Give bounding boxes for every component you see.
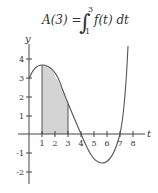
y-tick-labels: 4 3 2 1 -1 -2 bbox=[16, 55, 24, 177]
svg-text:1: 1 bbox=[19, 112, 24, 121]
svg-text:4: 4 bbox=[19, 55, 24, 64]
shaded-area bbox=[42, 65, 68, 134]
svg-text:-1: -1 bbox=[16, 149, 24, 158]
y-axis-label: y bbox=[24, 33, 31, 44]
svg-text:6: 6 bbox=[104, 139, 109, 148]
svg-text:-2: -2 bbox=[16, 168, 24, 177]
svg-text:3: 3 bbox=[19, 74, 24, 83]
graph: t y 1 2 3 4 5 6 7 8 4 3 2 1 -1 -2 bbox=[0, 0, 158, 193]
svg-text:1: 1 bbox=[39, 139, 44, 148]
x-axis-label: t bbox=[147, 128, 152, 139]
svg-text:3: 3 bbox=[65, 139, 70, 148]
svg-text:2: 2 bbox=[52, 139, 57, 148]
svg-text:2: 2 bbox=[19, 93, 24, 102]
svg-text:8: 8 bbox=[130, 139, 135, 148]
svg-text:4: 4 bbox=[78, 139, 83, 148]
svg-text:5: 5 bbox=[91, 139, 96, 148]
x-tick-labels: 1 2 3 4 5 6 7 8 bbox=[39, 139, 135, 148]
